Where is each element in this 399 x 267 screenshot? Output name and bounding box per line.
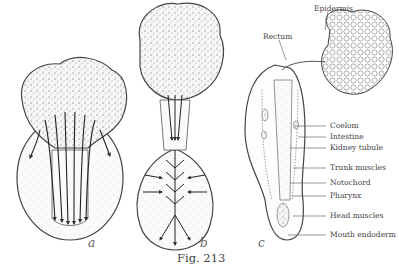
panel-letter-a: a (88, 236, 95, 250)
label-intestine: Intestine (330, 133, 364, 141)
panel-b-embryo (137, 3, 223, 250)
label-epidermis: Epidermis (314, 5, 353, 13)
label-pharynx: Pharynx (330, 192, 361, 200)
panel-letter-b: b (200, 236, 208, 250)
label-notochord: Notochord (330, 179, 371, 187)
panel-letter-c: c (258, 236, 265, 250)
label-mouth-endoderm: Mouth endoderm (330, 231, 396, 239)
panel-a-embryo (17, 57, 127, 240)
panel-c-section (245, 10, 392, 240)
label-trunk-muscles: Trunk muscles (330, 164, 386, 172)
label-rectum: Rectum (263, 33, 292, 41)
figure-caption: Fig. 213 (177, 251, 225, 265)
label-head-muscles: Head muscles (330, 212, 383, 220)
label-coelom: Coelom (330, 122, 359, 130)
label-kidney-tubule: Kidney tubule (330, 144, 383, 152)
